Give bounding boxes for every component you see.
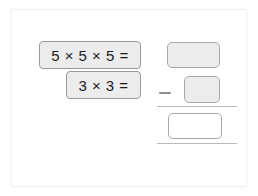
minuend-answer-box[interactable] xyxy=(167,42,220,68)
expression-chip-one: 5 × 5 × 5 = xyxy=(39,41,141,69)
minus-icon xyxy=(159,92,171,94)
expression-chip-two: 3 × 3 = xyxy=(66,71,141,99)
worksheet-page: 5 × 5 × 5 = 3 × 3 = xyxy=(11,9,247,187)
worksheet-canvas: 5 × 5 × 5 = 3 × 3 = xyxy=(12,10,248,188)
result-answer-box[interactable] xyxy=(168,113,222,139)
subtraction-rule-top xyxy=(157,106,237,107)
subtrahend-answer-box[interactable] xyxy=(184,76,220,103)
subtraction-rule-bottom xyxy=(157,143,237,144)
